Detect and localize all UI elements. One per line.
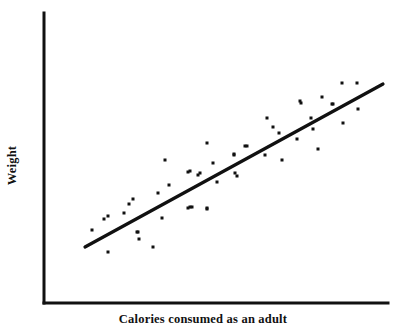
data-point	[189, 170, 192, 173]
data-point	[332, 103, 335, 106]
data-point	[137, 231, 140, 234]
data-point	[246, 145, 249, 148]
data-point	[128, 203, 131, 206]
data-point	[206, 142, 209, 145]
data-point	[191, 206, 194, 209]
data-point	[123, 212, 126, 215]
data-point	[199, 172, 202, 175]
data-point	[296, 138, 299, 141]
plot-canvas	[0, 0, 406, 331]
data-point	[266, 117, 269, 120]
data-point	[264, 154, 267, 157]
data-point	[152, 246, 155, 249]
data-point	[206, 207, 209, 210]
data-point	[107, 251, 110, 254]
data-point	[341, 82, 344, 85]
data-point	[342, 122, 345, 125]
data-point	[138, 238, 141, 241]
data-point	[168, 184, 171, 187]
data-point	[236, 175, 239, 178]
data-point	[278, 132, 281, 135]
data-point	[310, 117, 313, 120]
data-point	[164, 159, 167, 162]
data-point	[317, 148, 320, 151]
data-point	[216, 181, 219, 184]
data-point	[212, 162, 215, 165]
data-point	[103, 218, 106, 221]
data-point	[107, 215, 110, 218]
regression-line	[85, 84, 383, 247]
data-point	[233, 153, 236, 156]
data-point	[161, 217, 164, 220]
axes-group	[44, 13, 388, 303]
data-point	[234, 172, 237, 175]
data-point	[356, 82, 359, 85]
scatter-plot-figure: Weight Calories consumed as an adult	[0, 0, 406, 331]
data-point	[281, 159, 284, 162]
data-point	[187, 207, 190, 210]
data-point	[132, 198, 135, 201]
y-axis-label: Weight	[6, 146, 21, 185]
data-point	[272, 126, 275, 129]
data-point	[157, 192, 160, 195]
data-point	[321, 96, 324, 99]
data-point	[357, 108, 360, 111]
data-point	[91, 229, 94, 232]
x-axis-label: Calories consumed as an adult	[0, 312, 406, 327]
data-points-group	[91, 82, 360, 254]
trendline-group	[85, 84, 383, 247]
data-point	[300, 102, 303, 105]
data-point	[312, 128, 315, 131]
